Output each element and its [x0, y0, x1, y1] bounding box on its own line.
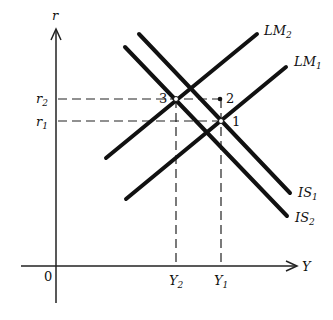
equilibrium-points — [174, 97, 224, 124]
y-axis-label: r — [52, 8, 59, 23]
r2-label: r2 — [36, 91, 48, 108]
is2-curve — [125, 47, 287, 216]
is-lm-diagram: 1 2 3 r Y 0 r2 r1 Y2 Y1 LM2 LM1 IS1 IS2 — [0, 0, 333, 320]
y1-label: Y1 — [214, 273, 228, 290]
axes — [21, 29, 297, 303]
lm2-label: LM2 — [263, 23, 292, 40]
y2-label: Y2 — [169, 273, 184, 290]
is2-label: IS2 — [294, 210, 315, 227]
curves — [106, 34, 290, 216]
point-3-marker — [174, 97, 179, 102]
point-2-marker — [218, 97, 223, 102]
point-2-label: 2 — [226, 91, 234, 106]
point-1-marker — [219, 119, 224, 124]
point-3-label: 3 — [159, 91, 167, 106]
origin-label: 0 — [44, 269, 52, 284]
r1-label: r1 — [36, 114, 48, 131]
lm1-label: LM1 — [293, 54, 322, 71]
point-1-label: 1 — [232, 114, 240, 129]
is1-label: IS1 — [297, 185, 318, 202]
x-axis-label: Y — [302, 259, 312, 274]
